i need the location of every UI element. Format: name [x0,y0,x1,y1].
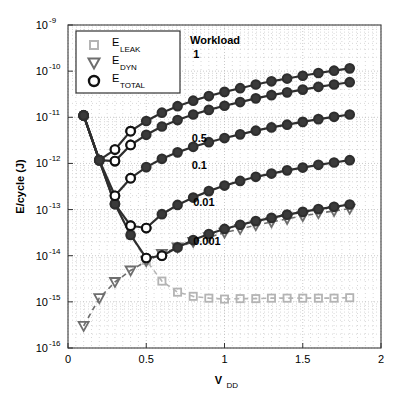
data-marker-circle [220,88,229,97]
y-tick-label: 10 [36,19,48,31]
y-tick-label: 10 [36,111,48,123]
data-marker-circle [205,106,214,115]
data-marker-circle [126,231,135,240]
data-marker-circle [314,205,323,214]
data-marker-circle [314,161,323,170]
x-axis-label: V [215,374,223,386]
y-tick-exponent: -13 [49,201,61,210]
data-marker-circle [283,210,292,219]
data-marker-circle [345,200,354,209]
data-marker-circle [173,148,182,157]
data-marker-circle [142,117,151,126]
data-marker-circle [330,113,339,122]
annotation-0-5: 0.5 [192,132,207,144]
data-marker-circle-open [111,191,120,200]
data-marker-circle-open [111,157,120,166]
data-marker-circle [220,181,229,190]
data-marker-circle [236,84,245,93]
annotation-Workload: Workload [190,34,240,46]
y-tick-label: 10 [36,342,48,354]
data-marker-circle [173,116,182,125]
data-marker-circle [330,203,339,212]
data-marker-circle [298,118,307,127]
y-tick-exponent: -14 [49,247,61,256]
data-marker-circle [252,94,261,103]
y-axis-label: E/cycle (J) [14,159,26,214]
y-tick-label: 10 [36,65,48,77]
legend-label-subscript: TOTAL [120,81,146,90]
data-marker-circle [330,66,339,75]
data-marker-circle-open [126,221,135,230]
data-marker-circle [298,85,307,94]
data-marker-circle [236,98,245,107]
x-tick-label: 0.5 [139,353,154,365]
y-tick-exponent: -15 [49,293,61,302]
data-marker-circle-open [142,254,151,263]
data-marker-circle [298,163,307,172]
y-tick-exponent: -16 [49,339,61,348]
data-marker-circle [220,134,229,143]
y-tick-exponent: -10 [49,62,61,71]
data-marker-circle [314,69,323,78]
data-marker-circle [314,83,323,92]
y-tick-exponent: -9 [49,16,57,25]
x-tick-label: 1 [221,353,227,365]
annotation-0-01: 0.01 [193,196,214,208]
annotation-1: 1 [193,48,199,60]
data-marker-circle-open [158,251,167,260]
data-marker-circle [205,92,214,101]
data-marker-circle [220,101,229,110]
data-marker-circle [330,80,339,89]
data-marker-circle [252,173,261,182]
annotation-0-001: 0.001 [193,235,221,247]
data-marker-circle [283,74,292,83]
data-marker-circle [283,120,292,129]
data-marker-circle [283,166,292,175]
data-marker-circle [95,156,104,165]
legend-label-subscript: DYN [120,63,137,72]
legend-label: E [112,36,119,48]
annotation-0-1: 0.1 [192,159,207,171]
data-marker-circle [314,115,323,124]
data-marker-circle [236,220,245,229]
data-marker-circle [173,102,182,111]
data-marker-circle [267,123,276,132]
data-marker-circle [189,110,198,119]
data-marker-circle [267,169,276,178]
legend-label-subscript: LEAK [120,45,141,54]
data-marker-circle [173,201,182,210]
legend: ELEAKEDYNETOTAL [76,31,180,93]
data-marker-circle [267,91,276,100]
data-marker-circle [142,131,151,140]
x-tick-label: 0 [65,353,71,365]
y-tick-label: 10 [36,157,48,169]
y-tick-label: 10 [36,296,48,308]
data-marker-circle-open [126,141,135,150]
data-marker-circle [345,110,354,119]
data-marker-circle-open [142,224,151,233]
data-marker-circle [236,130,245,139]
data-marker-circle [158,108,167,117]
data-marker-circle [189,143,198,152]
data-marker-circle [142,163,151,172]
data-marker-circle [267,214,276,223]
data-marker-circle [79,111,88,120]
data-marker-circle [158,155,167,164]
data-marker-circle [158,122,167,131]
x-axis-label-subscript: DD [227,381,239,390]
data-marker-circle [252,80,261,89]
data-marker-circle [298,71,307,80]
data-marker-circle [220,225,229,234]
data-marker-circle-open [126,174,135,183]
data-marker-circle [330,158,339,167]
data-marker-circle [345,78,354,87]
chart-svg: 00.511.5210-910-1010-1110-1210-1310-1410… [0,0,401,395]
data-marker-circle [205,187,214,196]
data-marker-circle-open [126,127,135,136]
data-marker-circle [158,210,167,219]
legend-label: E [112,72,119,84]
data-marker-circle [283,88,292,97]
y-tick-label: 10 [36,204,48,216]
x-tick-label: 1.5 [295,353,310,365]
y-tick-label: 10 [36,250,48,262]
